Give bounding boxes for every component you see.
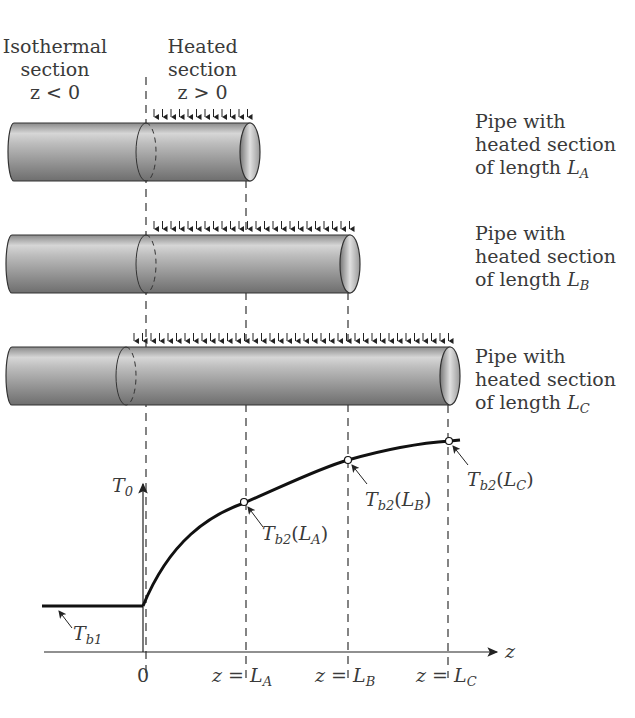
tb2-LC-label: Tb2(LC) <box>467 468 534 491</box>
pipe-b-line2: heated section <box>475 245 616 268</box>
isothermal-line3: z < 0 <box>0 81 110 104</box>
isothermal-label: Isothermal section z < 0 <box>0 35 110 104</box>
pipe-c-line3: of length LC <box>475 391 616 414</box>
point-LC <box>446 438 453 445</box>
heat-arrows-c <box>134 333 449 341</box>
pipe-b-line3: of length LB <box>475 268 616 291</box>
tick-LB: z = LB <box>315 664 375 687</box>
pointer-tb1 <box>59 611 72 628</box>
pointer-LC <box>453 446 468 465</box>
x-axis-label: z <box>505 640 515 663</box>
pipe-c-line2: heated section <box>475 368 616 391</box>
heat-arrows-b <box>154 221 350 229</box>
pipe-b <box>6 235 360 293</box>
heated-line1: Heated <box>150 35 255 58</box>
pipe-a-line3: of length LA <box>475 156 616 179</box>
pipe-c <box>6 347 460 405</box>
tb2-LB-label: Tb2(LB) <box>365 488 431 511</box>
temperature-curve <box>42 440 460 606</box>
isothermal-line2: section <box>0 58 110 81</box>
tick-LA: z = LA <box>212 664 272 687</box>
point-LB <box>345 457 352 464</box>
heated-line2: section <box>150 58 255 81</box>
heated-label: Heated section z > 0 <box>150 35 255 104</box>
pipe-c-line1: Pipe with <box>475 345 616 368</box>
point-LA <box>241 499 248 506</box>
pointer-LA <box>248 507 263 527</box>
isothermal-line1: Isothermal <box>0 35 110 58</box>
tick-LC: z = LC <box>416 664 477 687</box>
pipe-a-line1: Pipe with <box>475 110 616 133</box>
pipe-b-label: Pipe with heated section of length LB <box>475 222 616 291</box>
heated-line3: z > 0 <box>150 81 255 104</box>
pipe-a-line2: heated section <box>475 133 616 156</box>
tb2-LA-label: Tb2(LA) <box>262 522 328 545</box>
tb1-label: Tb1 <box>73 622 102 645</box>
pipe-a-label: Pipe with heated section of length LA <box>475 110 616 179</box>
pipe-c-label: Pipe with heated section of length LC <box>475 345 616 414</box>
tick-0: 0 <box>137 664 149 687</box>
pipe-a <box>8 123 260 181</box>
y-axis-label: T0 <box>112 474 133 497</box>
heat-arrows-a <box>154 109 248 117</box>
pointer-LB <box>352 465 367 484</box>
pipe-b-line1: Pipe with <box>475 222 616 245</box>
